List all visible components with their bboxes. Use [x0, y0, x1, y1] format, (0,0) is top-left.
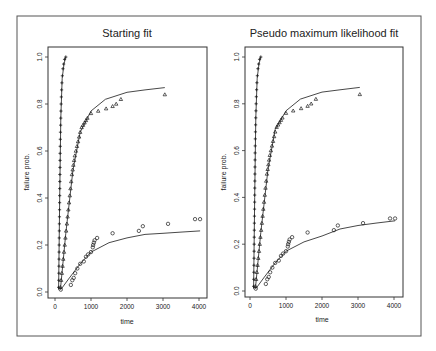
plus-marker	[254, 151, 257, 154]
plus-marker	[58, 187, 61, 190]
plot-box	[245, 47, 403, 297]
plus-marker	[255, 102, 258, 105]
panel-title: Pseudo maximum likelihood fit	[250, 27, 399, 39]
x-tick-label: 4000	[387, 302, 402, 309]
series	[59, 217, 202, 291]
plot-area	[252, 55, 397, 290]
plus-marker	[254, 130, 257, 133]
circle-marker	[361, 221, 364, 224]
series	[252, 55, 262, 288]
x-tick-label: 3000	[156, 303, 171, 310]
plus-marker	[58, 243, 61, 246]
plus-marker	[253, 186, 256, 189]
series	[254, 217, 397, 291]
figure: Starting fit 0.00.20.40.60.81.0 01000200…	[0, 0, 436, 351]
circle-marker	[268, 271, 271, 274]
plus-marker	[58, 229, 61, 232]
plus-marker	[60, 102, 63, 105]
triangle-marker	[299, 107, 302, 110]
y-axis: 0.00.20.40.60.81.0	[233, 52, 245, 295]
circle-marker	[336, 224, 339, 227]
triangle-marker	[358, 93, 361, 96]
x-tick-label: 0	[248, 302, 252, 309]
y-axis-label: failure prob.	[23, 153, 31, 190]
triangle-marker	[119, 98, 122, 101]
plus-marker	[57, 265, 60, 268]
x-tick-label: 3000	[351, 302, 366, 309]
fit-line	[255, 87, 359, 288]
circle-marker	[69, 283, 72, 286]
triangle-marker	[314, 97, 317, 100]
circle-marker	[111, 232, 114, 235]
y-tick-label: 0.0	[36, 287, 43, 296]
plus-marker	[254, 144, 257, 147]
series	[59, 88, 167, 290]
triangle-marker	[292, 109, 295, 112]
plus-marker	[254, 109, 257, 112]
plus-marker	[59, 138, 62, 141]
plus-marker	[254, 123, 257, 126]
plus-marker	[59, 152, 62, 155]
plus-marker	[253, 193, 256, 196]
plus-marker	[58, 180, 61, 183]
plus-marker	[253, 250, 256, 253]
plus-marker	[58, 215, 61, 218]
triangle-marker	[163, 93, 166, 96]
plus-marker	[253, 229, 256, 232]
plus-marker	[254, 137, 257, 140]
triangle-marker	[284, 111, 287, 114]
y-tick-label: 0.6	[36, 146, 43, 155]
triangle-marker	[310, 102, 313, 105]
plus-marker	[58, 250, 61, 253]
y-tick-label: 0.6	[233, 146, 240, 155]
triangle-marker	[265, 172, 268, 175]
y-tick-label: 0.2	[36, 240, 43, 249]
panel-pseudo-ml-fit: Pseudo maximum likelihood fit 0.00.20.40…	[220, 27, 403, 323]
fit-line	[256, 221, 395, 289]
x-tick-label: 0	[53, 303, 57, 310]
x-axis: 01000200030004000	[53, 298, 206, 310]
y-tick-label: 0.4	[233, 193, 240, 202]
plus-marker	[61, 74, 64, 77]
y-axis: 0.00.20.40.60.81.0	[36, 52, 48, 296]
plus-marker	[60, 81, 63, 84]
y-tick-label: 0.4	[36, 193, 43, 202]
plus-marker	[253, 236, 256, 239]
plus-marker	[59, 124, 62, 127]
y-tick-label: 0.8	[36, 99, 43, 108]
plus-marker	[60, 88, 63, 91]
circle-marker	[73, 272, 76, 275]
circle-marker	[95, 236, 98, 239]
plus-marker	[58, 173, 61, 176]
panel-starting-fit: Starting fit 0.00.20.40.60.81.0 01000200…	[23, 27, 207, 325]
plus-marker	[254, 116, 257, 119]
plus-marker	[255, 81, 258, 84]
plus-marker	[253, 165, 256, 168]
circle-marker	[193, 217, 196, 220]
plus-marker	[256, 74, 259, 77]
plus-marker	[253, 172, 256, 175]
plus-marker	[61, 67, 64, 70]
triangle-marker	[89, 112, 92, 115]
plot-area	[57, 55, 202, 291]
circle-marker	[306, 231, 309, 234]
y-axis-label: failure prob.	[220, 153, 228, 190]
plus-marker	[253, 243, 256, 246]
circle-marker	[264, 282, 267, 285]
x-axis-label: time	[120, 318, 133, 325]
y-tick-label: 1.0	[233, 52, 240, 61]
series	[57, 55, 67, 289]
x-axis-label: time	[315, 316, 328, 323]
triangle-marker	[306, 104, 309, 107]
circle-marker	[137, 229, 140, 232]
triangle-marker	[104, 107, 107, 110]
plus-marker	[253, 222, 256, 225]
x-tick-label: 1000	[84, 303, 99, 310]
plus-marker	[59, 109, 62, 112]
fit-line	[60, 88, 164, 290]
series	[254, 87, 362, 288]
triangle-marker	[111, 105, 114, 108]
plus-marker	[59, 145, 62, 148]
plus-marker	[60, 95, 63, 98]
plus-marker	[58, 222, 61, 225]
